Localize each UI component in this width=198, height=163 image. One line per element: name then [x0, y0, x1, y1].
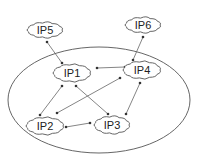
- endpoint-dot-icon: [61, 62, 64, 65]
- endpoint-dot-icon: [75, 85, 78, 88]
- nodes-group: IP1IP2IP3IP4IP5IP6: [26, 17, 160, 135]
- connector-line: [40, 86, 62, 115]
- connector-line: [126, 83, 140, 114]
- endpoint-dot-icon: [132, 59, 135, 62]
- endpoint-dot-icon: [119, 77, 122, 80]
- connector-line: [97, 67, 125, 68]
- node-ip2: IP2: [26, 117, 63, 135]
- node-label: IP3: [104, 119, 121, 131]
- node-label: IP2: [37, 120, 54, 132]
- node-ip1: IP1: [53, 64, 90, 82]
- endpoint-dot-icon: [125, 113, 128, 116]
- edge-ip1-ip5: [46, 41, 64, 65]
- node-label: IP4: [134, 64, 151, 76]
- node-label: IP1: [64, 67, 81, 79]
- connector-line: [47, 42, 62, 63]
- edge-ip1-ip4: [96, 66, 127, 70]
- endpoint-dot-icon: [46, 41, 49, 44]
- node-label: IP6: [135, 19, 152, 31]
- endpoint-dot-icon: [39, 114, 42, 117]
- node-ip3: IP3: [94, 116, 129, 134]
- endpoint-dot-icon: [61, 85, 64, 88]
- edge-ip4-ip2: [56, 77, 122, 115]
- node-ip5: IP5: [27, 22, 62, 38]
- node-label: IP5: [37, 24, 54, 36]
- connector-line: [133, 37, 143, 60]
- edge-ip2-ip3: [65, 122, 92, 129]
- connector-line: [66, 123, 90, 127]
- endpoint-dot-icon: [65, 126, 68, 129]
- edge-ip4-ip6: [132, 36, 145, 62]
- endpoint-dot-icon: [142, 36, 145, 39]
- node-ip4: IP4: [123, 61, 160, 79]
- network-diagram: IP1IP2IP3IP4IP5IP6: [0, 0, 198, 163]
- endpoint-dot-icon: [107, 113, 110, 116]
- node-ip6: IP6: [125, 17, 160, 33]
- endpoint-dot-icon: [139, 82, 142, 85]
- edge-ip3-ip4: [125, 82, 142, 116]
- endpoint-dot-icon: [89, 122, 92, 125]
- endpoint-dot-icon: [56, 112, 59, 115]
- connector-line: [57, 78, 120, 113]
- endpoint-dot-icon: [96, 67, 99, 70]
- network-boundary-ellipse: [8, 47, 190, 153]
